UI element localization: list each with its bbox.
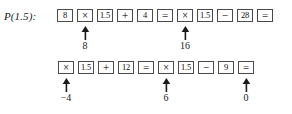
calculator-key-operator[interactable]: = [138,61,154,74]
up-arrow-icon [62,78,71,92]
key-cell: 1.5 [78,61,94,74]
display-annotation: 6 [146,75,186,103]
calculator-key-operator[interactable]: − [217,9,233,22]
calculator-key-number[interactable]: 28 [237,9,253,22]
keystroke-figure: P(1.5): 8×81.5+4=×161.5−28= ×−41.5+12=×6… [0,0,292,114]
display-annotation: 8 [65,23,105,51]
key-cell: ×−4 [58,61,74,74]
key-cell: ×16 [177,9,193,22]
calculator-key-operator[interactable]: × [177,9,193,22]
key-cell: = [257,9,273,22]
key-cell: 28 [237,9,253,22]
display-value: 6 [164,93,169,103]
calculator-key-operator[interactable]: = [157,9,173,22]
calculator-key-operator[interactable]: + [117,9,133,22]
calculator-key-operator[interactable]: = [238,61,254,74]
key-cell: − [217,9,233,22]
up-arrow-icon [181,26,190,40]
calculator-key-number[interactable]: 12 [118,61,134,74]
calculator-key-operator[interactable]: × [158,61,174,74]
display-annotation: −4 [46,75,86,103]
row-label-p15: P(1.5): [4,10,36,22]
key-cell: 4 [137,9,153,22]
display-value: −4 [61,93,72,103]
display-value: 0 [244,93,249,103]
key-cell: 1.5 [178,61,194,74]
keystroke-row-1: 8×81.5+4=×161.5−28= [57,9,273,22]
key-cell: ×6 [158,61,174,74]
key-cell: + [117,9,133,22]
key-cell: + [98,61,114,74]
calculator-key-number[interactable]: 4 [137,9,153,22]
calculator-key-number[interactable]: 1.5 [78,61,94,74]
key-cell: 8 [57,9,73,22]
calculator-key-number[interactable]: 1.5 [97,9,113,22]
up-arrow-icon [242,78,251,92]
key-cell: 9 [218,61,234,74]
display-value: 16 [180,41,190,51]
calculator-key-number[interactable]: 1.5 [178,61,194,74]
calculator-key-operator[interactable]: × [58,61,74,74]
key-cell: 1.5 [97,9,113,22]
key-cell: 12 [118,61,134,74]
calculator-key-operator[interactable]: × [77,9,93,22]
calculator-key-operator[interactable]: − [198,61,214,74]
display-value: 8 [83,41,88,51]
up-arrow-icon [81,26,90,40]
key-cell: = [138,61,154,74]
key-cell: 1.5 [197,9,213,22]
calculator-key-operator[interactable]: = [257,9,273,22]
keystroke-row-2: ×−41.5+12=×61.5−9=0 [58,61,254,74]
calculator-key-number[interactable]: 8 [57,9,73,22]
calculator-key-number[interactable]: 9 [218,61,234,74]
key-cell: =0 [238,61,254,74]
key-cell: − [198,61,214,74]
key-cell: = [157,9,173,22]
up-arrow-icon [162,78,171,92]
key-cell: ×8 [77,9,93,22]
display-annotation: 0 [226,75,266,103]
calculator-key-number[interactable]: 1.5 [197,9,213,22]
display-annotation: 16 [165,23,205,51]
calculator-key-operator[interactable]: + [98,61,114,74]
